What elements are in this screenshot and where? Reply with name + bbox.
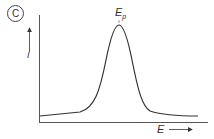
- y-axis-label: I: [27, 51, 30, 60]
- chart-plot: [0, 0, 214, 139]
- chart-figure: C I Ep E: [0, 0, 214, 139]
- x-axis-label: E: [157, 124, 164, 135]
- peak-label-sub: p: [122, 13, 126, 20]
- data-curve: [40, 25, 198, 116]
- peak-label: Ep: [115, 7, 126, 20]
